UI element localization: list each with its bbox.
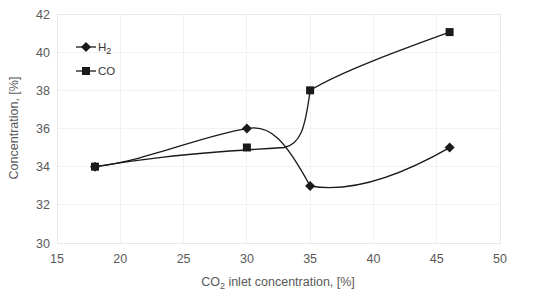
x-axis-title-rest: inlet concentration, [%] (225, 275, 355, 289)
x-tick-label: 20 (113, 252, 127, 266)
y-tick-label: 40 (36, 46, 50, 60)
legend-marker-square-icon (82, 67, 90, 75)
x-axis-title: CO2 inlet concentration, [%] (201, 275, 355, 291)
y-tick-label: 36 (36, 122, 50, 136)
x-tick-label: 40 (366, 252, 380, 266)
data-point-co-35 (306, 86, 314, 94)
y-tick-label: 42 (36, 8, 50, 22)
y-axis-tick-labels: 42 40 38 36 34 32 30 (36, 8, 50, 251)
data-point-co-46 (446, 28, 454, 36)
chart-svg: 42 40 38 36 34 32 30 15 20 25 30 35 40 4… (0, 0, 538, 299)
y-tick-label: 38 (36, 84, 50, 98)
x-tick-label: 35 (303, 252, 317, 266)
chart-container: 42 40 38 36 34 32 30 15 20 25 30 35 40 4… (0, 0, 538, 299)
y-axis-title: Concentration, [%] (7, 77, 21, 180)
legend-label-co: CO (98, 65, 115, 77)
x-tick-label: 25 (177, 252, 191, 266)
y-tick-label: 30 (36, 237, 50, 251)
x-axis-title-main: CO (201, 275, 220, 289)
y-tick-label: 34 (36, 160, 50, 174)
x-tick-label: 15 (50, 252, 64, 266)
x-axis-tick-labels: 15 20 25 30 35 40 45 50 (50, 252, 507, 266)
x-tick-label: 50 (493, 252, 507, 266)
data-point-co-30 (243, 144, 251, 152)
x-tick-label: 30 (240, 252, 254, 266)
x-tick-label: 45 (430, 252, 444, 266)
y-tick-label: 32 (36, 198, 50, 212)
